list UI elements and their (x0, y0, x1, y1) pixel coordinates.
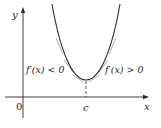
increasing-label: f′(x) > 0 (104, 64, 144, 75)
x-axis-arrow-icon (143, 95, 149, 99)
decreasing-label: f′(x) < 0 (25, 64, 65, 75)
derivative-sign-diagram: y 0 c x f′(x) < 0 f′(x) > 0 (0, 0, 161, 128)
y-axis-label: y (11, 9, 18, 20)
x-axis-label: x (144, 101, 150, 112)
diagram-canvas: y 0 c x f′(x) < 0 f′(x) > 0 (0, 0, 161, 128)
c-tick-label: c (83, 102, 89, 113)
origin-label: 0 (16, 101, 22, 112)
y-axis-arrow-icon (21, 7, 25, 13)
tangent-lines (56, 38, 116, 82)
